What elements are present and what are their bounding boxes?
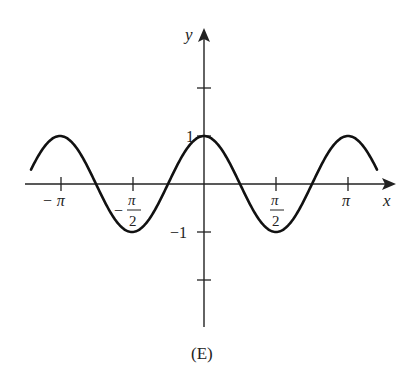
y-axis-label: y [183, 25, 193, 44]
x-tick-label-neg-pi-half-num: π [128, 192, 136, 208]
x-axis-label: x [382, 191, 391, 210]
x-tick-label-neg-pi-half-den: 2 [129, 213, 137, 229]
chart-canvas: y x 1 −1 − π − π 2 π 2 π (E) [0, 0, 414, 385]
x-tick-label-pi-half-num: π [271, 192, 279, 208]
y-tick-label-neg1: −1 [170, 224, 187, 241]
figure-caption: (E) [191, 344, 213, 363]
x-tick-label-pi: π [342, 192, 351, 209]
x-tick-label-pi-half-den: 2 [272, 213, 280, 229]
x-tick-label-neg-pi: − π [42, 192, 66, 209]
x-tick-label-neg-pi-half-sign: − [114, 202, 123, 219]
y-tick-label-1: 1 [186, 128, 194, 145]
